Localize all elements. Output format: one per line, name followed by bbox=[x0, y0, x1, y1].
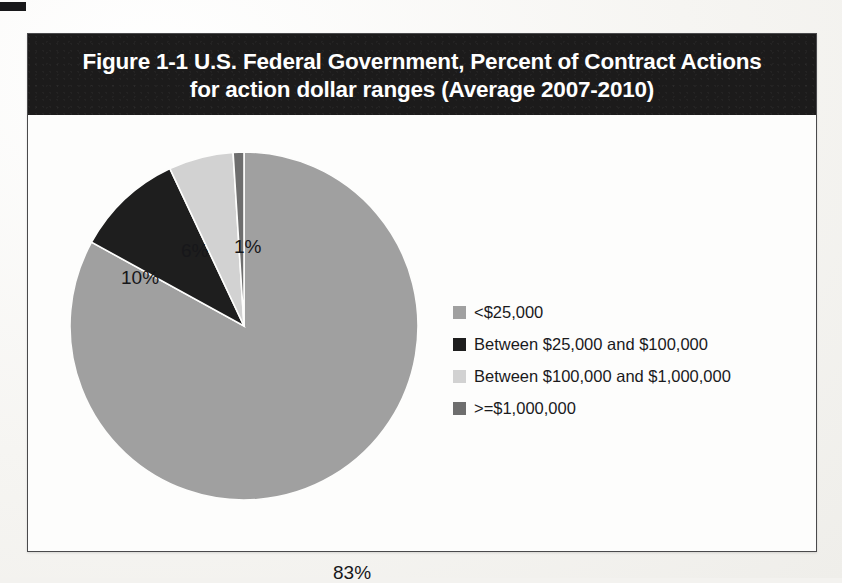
legend-label-1: Between $25,000 and $100,000 bbox=[474, 335, 708, 354]
pie-value-label-2: 6% bbox=[181, 240, 208, 262]
pie-chart-svg bbox=[69, 151, 419, 501]
figure-title-line-1: Figure 1-1 U.S. Federal Government, Perc… bbox=[82, 48, 761, 76]
figure-frame: Figure 1-1 U.S. Federal Government, Perc… bbox=[27, 33, 817, 552]
legend-item-3: >=$1,000,000 bbox=[453, 393, 803, 423]
legend-item-2: Between $100,000 and $1,000,000 bbox=[453, 361, 803, 391]
legend-swatch-icon-0 bbox=[453, 306, 466, 319]
pie-slice-group bbox=[70, 152, 418, 500]
legend-label-3: >=$1,000,000 bbox=[474, 399, 576, 418]
pie-value-label-1: 10% bbox=[121, 267, 159, 289]
legend-item-1: Between $25,000 and $100,000 bbox=[453, 329, 803, 359]
legend-swatch-icon-2 bbox=[453, 370, 466, 383]
plot-area: 83% 10% 6% 1% <$25,000 Between $25,000 a… bbox=[28, 115, 816, 551]
pie-value-label-0: 83% bbox=[333, 562, 371, 583]
pie-value-label-3: 1% bbox=[234, 236, 261, 258]
legend-item-0: <$25,000 bbox=[453, 297, 803, 327]
scan-corner-artifact bbox=[0, 2, 26, 11]
figure-title-line-2: for action dollar ranges (Average 2007-2… bbox=[190, 76, 654, 104]
legend-swatch-icon-1 bbox=[453, 338, 466, 351]
legend-swatch-icon-3 bbox=[453, 402, 466, 415]
figure-title-banner: Figure 1-1 U.S. Federal Government, Perc… bbox=[28, 34, 816, 115]
chart-legend: <$25,000 Between $25,000 and $100,000 Be… bbox=[453, 297, 803, 425]
pie-chart bbox=[69, 151, 419, 501]
legend-label-0: <$25,000 bbox=[474, 303, 543, 322]
legend-label-2: Between $100,000 and $1,000,000 bbox=[474, 367, 731, 386]
